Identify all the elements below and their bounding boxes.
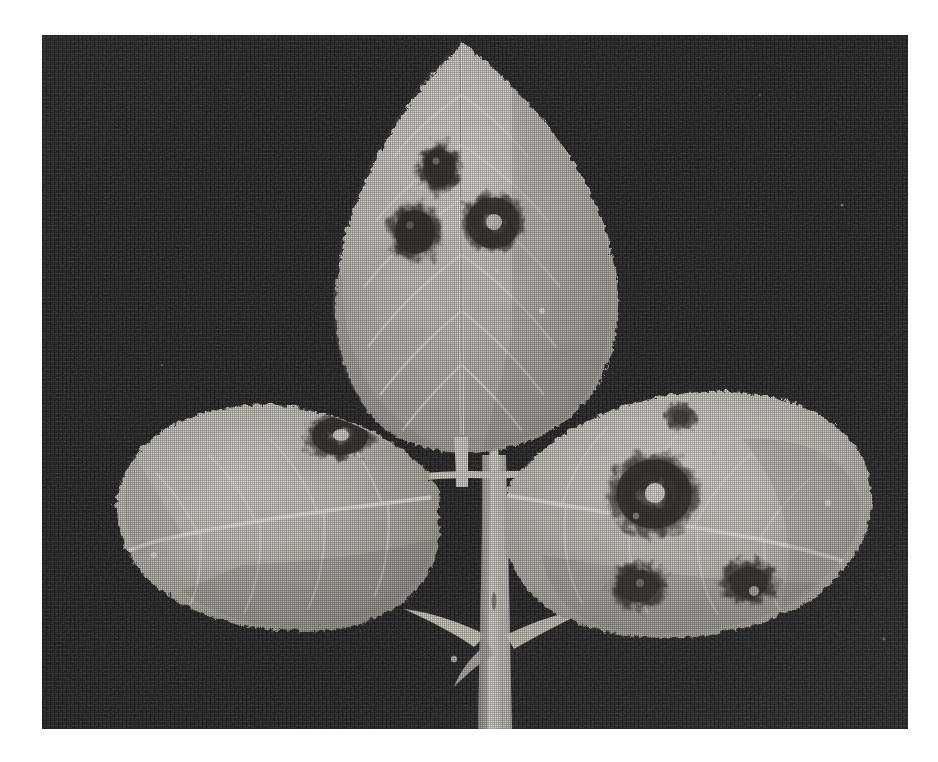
page-root — [0, 0, 938, 762]
photograph — [42, 35, 908, 729]
film-grain-overlay — [42, 35, 908, 729]
leaf-photograph-svg — [42, 35, 908, 729]
